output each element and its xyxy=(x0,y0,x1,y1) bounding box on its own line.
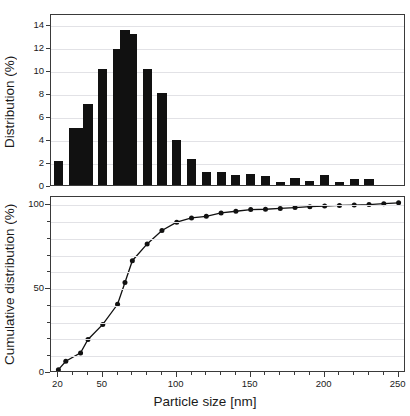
minor-tick-mark xyxy=(191,372,192,375)
minor-tick-mark xyxy=(368,372,369,375)
bar xyxy=(276,182,285,185)
minor-tick-mark xyxy=(309,372,310,375)
tick-mark xyxy=(45,372,50,373)
tick-mark xyxy=(46,186,50,187)
data-point-marker xyxy=(122,280,127,285)
cumulative-curve xyxy=(51,197,405,372)
data-point-marker xyxy=(219,210,224,215)
cumulative-distribution-line-chart-plot-area xyxy=(50,196,405,372)
distribution-bar-chart-plot-area xyxy=(50,14,405,186)
minor-tick-mark xyxy=(383,372,384,375)
minor-tick-mark xyxy=(220,372,221,375)
bar xyxy=(335,182,344,185)
x-tick-label: 150 xyxy=(234,378,266,389)
data-point-marker xyxy=(204,214,209,219)
gridline xyxy=(51,323,404,324)
y-tick-label: 50 xyxy=(14,282,44,293)
data-point-marker xyxy=(248,207,253,212)
gridline xyxy=(51,239,404,240)
gridline xyxy=(51,289,404,290)
minor-tick-mark xyxy=(146,372,147,375)
bar xyxy=(364,179,373,185)
gridline xyxy=(51,205,404,206)
bar xyxy=(217,172,226,185)
x-tick-label: 50 xyxy=(86,378,118,389)
bar xyxy=(231,175,240,185)
bar xyxy=(350,179,359,185)
y-tick-label: 6 xyxy=(18,111,44,122)
x-axis-title: Particle size [nm] xyxy=(0,394,410,409)
y-tick-label: 0 xyxy=(18,180,44,191)
data-point-marker xyxy=(263,207,268,212)
bar xyxy=(143,69,152,185)
minor-tick-mark xyxy=(294,372,295,375)
minor-tick-mark xyxy=(161,372,162,375)
gridline xyxy=(51,272,404,273)
tick-mark xyxy=(250,372,251,377)
data-point-marker xyxy=(63,359,68,364)
gridline xyxy=(51,339,404,340)
bar xyxy=(246,174,255,185)
bar xyxy=(98,69,107,185)
bar xyxy=(128,34,137,185)
minor-tick-mark xyxy=(353,372,354,375)
y-tick-label: 2 xyxy=(18,157,44,168)
bar xyxy=(54,161,63,185)
tick-mark xyxy=(57,372,58,377)
tick-mark xyxy=(324,372,325,377)
gridline xyxy=(51,26,404,27)
bar xyxy=(202,172,211,185)
top-panel-y-axis-title: Distribution (%) xyxy=(2,16,18,188)
y-tick-label: 100 xyxy=(14,198,44,209)
y-tick-label: 4 xyxy=(18,134,44,145)
bar xyxy=(187,159,196,185)
bar xyxy=(261,176,270,185)
bar xyxy=(83,104,92,185)
bar xyxy=(305,181,314,185)
bar xyxy=(172,140,181,185)
y-tick-label: 8 xyxy=(18,88,44,99)
minor-tick-mark xyxy=(235,372,236,375)
minor-tick-mark xyxy=(72,372,73,375)
y-tick-label: 12 xyxy=(18,42,44,53)
gridline xyxy=(51,306,404,307)
minor-tick-mark xyxy=(117,372,118,375)
minor-tick-mark xyxy=(279,372,280,375)
minor-tick-mark xyxy=(338,372,339,375)
data-point-marker xyxy=(159,228,164,233)
tick-mark xyxy=(176,372,177,377)
gridline xyxy=(51,222,404,223)
tick-mark xyxy=(398,372,399,377)
cumulative-line xyxy=(58,203,398,370)
data-point-marker xyxy=(189,215,194,220)
gridline xyxy=(51,256,404,257)
tick-mark xyxy=(102,372,103,377)
gridline xyxy=(51,356,404,357)
data-point-marker xyxy=(145,241,150,246)
minor-tick-mark xyxy=(264,372,265,375)
bar xyxy=(157,93,166,185)
data-point-marker xyxy=(278,206,283,211)
data-point-marker xyxy=(233,209,238,214)
bar xyxy=(290,178,299,185)
x-tick-label: 100 xyxy=(160,378,192,389)
x-tick-label: 200 xyxy=(308,378,340,389)
particle-size-distribution-figure: Distribution (%) 02468101214 Cumulative … xyxy=(0,0,410,416)
x-tick-label: 20 xyxy=(41,378,73,389)
y-tick-label: 0 xyxy=(14,366,44,377)
data-point-marker xyxy=(130,258,135,263)
gridline xyxy=(51,49,404,50)
y-tick-label: 10 xyxy=(18,65,44,76)
y-tick-label: 14 xyxy=(18,19,44,30)
minor-tick-mark xyxy=(205,372,206,375)
x-tick-label: 250 xyxy=(382,378,410,389)
minor-tick-mark xyxy=(87,372,88,375)
data-point-marker xyxy=(78,350,83,355)
minor-tick-mark xyxy=(131,372,132,375)
bar xyxy=(320,175,329,185)
